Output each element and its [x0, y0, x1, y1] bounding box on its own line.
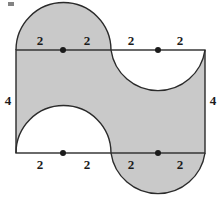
dot-bottom-left [60, 150, 66, 156]
dot-bottom-right [155, 150, 161, 156]
figure-canvas: 2 2 2 2 2 2 2 2 4 4 [0, 0, 221, 200]
label-top-3: 2 [124, 34, 138, 47]
label-top-2: 2 [80, 34, 94, 47]
scan-speck [8, 2, 14, 6]
label-bottom-2: 2 [80, 158, 94, 171]
label-bottom-1: 2 [33, 158, 47, 171]
label-top-1: 2 [33, 34, 47, 47]
label-bottom-4: 2 [173, 158, 187, 171]
dot-top-right [155, 47, 161, 53]
label-left-height: 4 [2, 94, 14, 107]
label-bottom-3: 2 [124, 158, 138, 171]
label-right-height: 4 [207, 94, 219, 107]
label-top-4: 2 [173, 34, 187, 47]
dot-top-left [60, 47, 66, 53]
